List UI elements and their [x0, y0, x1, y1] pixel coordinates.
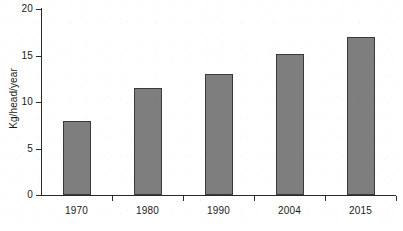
x-axis-tick	[254, 196, 255, 201]
y-axis-tick	[36, 9, 41, 10]
y-axis-tick	[36, 56, 41, 57]
x-axis-tick	[325, 196, 326, 201]
x-axis-tick-label: 2015	[325, 205, 396, 216]
y-axis-tick-label-wrap: 20	[10, 4, 33, 14]
x-axis-tick-label: 1990	[183, 205, 254, 216]
bar	[347, 37, 375, 195]
bar-chart: Kg/head/year 05101520 197019801990200420…	[0, 0, 403, 231]
y-axis-tick	[36, 195, 41, 196]
x-axis-tick-label: 2004	[254, 205, 325, 216]
bar	[63, 121, 91, 195]
x-axis-tick-label: 1980	[112, 205, 183, 216]
y-axis-tick-label-wrap: 15	[10, 51, 33, 61]
x-axis-line	[41, 195, 396, 196]
y-axis-tick-label-wrap: 0	[10, 190, 33, 200]
y-axis-tick-label: 0	[10, 190, 33, 200]
y-axis-tick	[36, 149, 41, 150]
y-axis-tick	[36, 102, 41, 103]
y-axis-tick-label-wrap: 5	[10, 144, 33, 154]
y-axis-tick-label-wrap: 10	[10, 97, 33, 107]
y-axis-tick-label: 20	[10, 4, 33, 14]
x-axis-tick-label: 1970	[41, 205, 112, 216]
bar	[276, 54, 304, 195]
x-axis-tick	[183, 196, 184, 201]
y-axis-line	[41, 8, 42, 196]
x-axis-tick	[396, 196, 397, 201]
y-axis-tick-label: 5	[10, 144, 33, 154]
scan-noise-overlay	[0, 0, 403, 231]
x-axis-tick	[112, 196, 113, 201]
bar	[134, 88, 162, 195]
y-axis-tick-label: 10	[10, 97, 33, 107]
bar	[205, 74, 233, 195]
y-axis-tick-label: 15	[10, 51, 33, 61]
